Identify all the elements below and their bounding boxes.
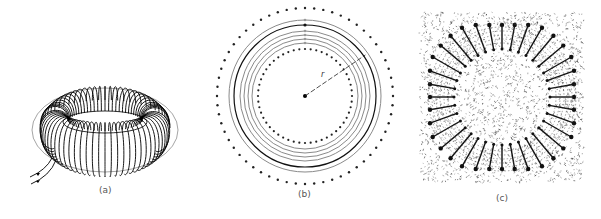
filing-speck [450,132,452,133]
inner-wire-dot [287,139,289,141]
filing-speck [531,136,532,137]
filing-speck [448,62,449,63]
filing-speck [579,141,580,142]
filing-speck [578,144,580,145]
outer-wire-dot [375,147,377,149]
filing-speck [431,23,432,24]
filing-speck [541,52,542,53]
filing-speck [528,118,529,119]
filing-speck [501,181,502,182]
wire-inner-dot [459,120,462,123]
field-direction-marker [304,19,307,22]
filing-speck [481,92,483,93]
inner-wire-dot [348,78,350,80]
filing-speck [493,138,494,139]
filing-speck [575,66,576,67]
inner-wire-dot [269,64,271,66]
filing-speck [515,123,516,124]
outer-wire-dot [331,178,333,180]
filing-speck [547,27,548,28]
filing-speck [443,33,444,35]
filing-speck [488,124,489,125]
filing-speck [463,37,464,38]
filing-speck [438,119,439,120]
filing-speck [473,56,474,57]
filing-speck [450,56,451,57]
filing-speck [494,34,495,35]
filing-speck [447,110,448,111]
filing-speck [478,175,479,176]
filing-speck [488,119,489,120]
filing-speck [497,64,498,66]
filing-speck [436,15,437,16]
winding-turn [99,86,102,111]
filing-speck [562,153,563,155]
filing-speck [487,81,488,82]
inner-wire-dot [257,101,259,103]
filing-speck [498,52,499,53]
filing-speck [484,83,485,85]
wire-end-dot [474,23,478,27]
filing-speck [430,55,431,56]
filing-field-band [448,43,556,151]
filing-speck [540,19,541,20]
filing-speck [526,106,527,108]
filing-speck [566,123,567,124]
filing-speck [461,124,463,125]
filing-speck [557,17,558,19]
wire-end-dot [500,167,504,171]
filing-speck [500,105,501,107]
filing-speck [574,173,575,174]
filing-speck [484,154,485,155]
filing-speck [436,111,437,113]
filing-speck [524,97,525,98]
filing-speck [521,55,522,56]
filing-speck [499,17,500,18]
filing-speck [532,156,533,157]
wire-end-dot [561,146,565,150]
filing-speck [507,164,508,165]
filing-speck [530,113,532,114]
outer-wire-dot [216,104,218,106]
filing-speck [511,65,512,66]
filing-speck [465,89,466,90]
outer-wire-dot [384,59,386,61]
filing-speck [436,157,437,158]
filing-speck [512,28,513,29]
field-direction-marker [304,34,307,37]
filing-speck [492,87,493,88]
filing-speck [468,149,469,150]
filing-speck [578,163,579,165]
wire-inner-dot [548,87,551,90]
filing-speck [552,23,553,24]
inner-wire-dot [273,60,275,62]
filing-speck [468,22,469,24]
filing-speck [468,72,469,73]
filing-speck [562,56,563,57]
filing-speck [429,139,431,140]
filing-speck [449,29,450,30]
filing-speck [422,35,423,36]
filing-speck [506,110,507,111]
filing-speck [425,22,426,23]
filing-speck [530,100,532,101]
filing-speck [515,181,516,183]
filing-speck [452,90,453,92]
filing-speck [565,104,566,106]
wire-end-dot [487,167,491,171]
filing-speck [580,178,581,180]
filing-speck [527,59,528,60]
wire-inner-dot [546,112,549,115]
filing-speck [504,60,505,61]
filing-speck [489,99,490,101]
filing-speck [424,156,425,158]
filing-speck [539,173,540,174]
wire-inner-dot [492,143,495,146]
filing-speck [576,111,577,112]
filing-speck [459,26,460,27]
filing-speck [576,22,577,23]
filing-speck [532,96,533,97]
inner-wire-dot [331,56,333,58]
filing-speck [483,173,485,174]
filing-speck [430,160,431,161]
